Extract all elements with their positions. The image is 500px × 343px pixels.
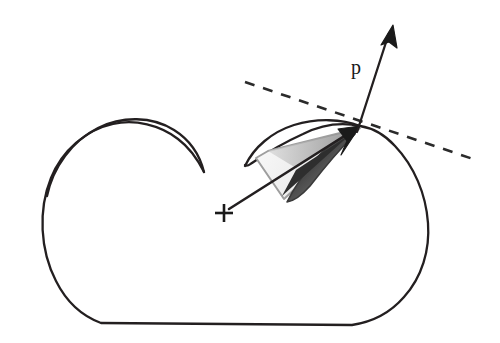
normal-vector-shaft (357, 33, 389, 132)
figure-canvas: p (0, 0, 500, 343)
vector-p-label: p (351, 56, 361, 79)
cone-region-group (256, 128, 360, 202)
body-outline-group (42, 119, 428, 325)
normal-vector-group (357, 25, 397, 132)
body-notch-spiral-path (47, 119, 204, 196)
body-outline-path (42, 122, 428, 325)
normal-vector-arrow-head (381, 25, 397, 48)
geometric-diagram-svg: p (0, 0, 500, 343)
